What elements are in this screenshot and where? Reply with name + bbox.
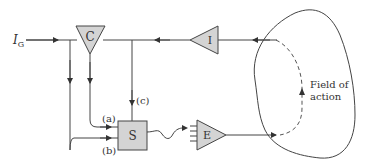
selector-label: S [128,129,136,143]
field-label-line1: Field of [310,79,350,90]
field-dashed-loop [276,40,302,135]
label-b: (b) [102,145,116,156]
label-a: (a) [102,113,116,124]
selector-to-effector-wave [147,128,183,139]
input-label: IG [12,33,24,49]
wave-arrowhead [182,125,188,131]
label-c: (c) [136,95,150,106]
sensor-block [190,26,218,54]
effector-label: E [203,129,211,142]
effector-block [197,120,226,150]
field-label-line2: action [310,91,342,102]
comparator-label: C [85,30,94,44]
control-loop-diagram: IG C I (a) (b) (c) S E Field of ac [0,0,369,162]
sensor-label: I [208,34,212,47]
path-b [70,40,118,150]
dashed-loop-arrowhead [299,88,305,95]
